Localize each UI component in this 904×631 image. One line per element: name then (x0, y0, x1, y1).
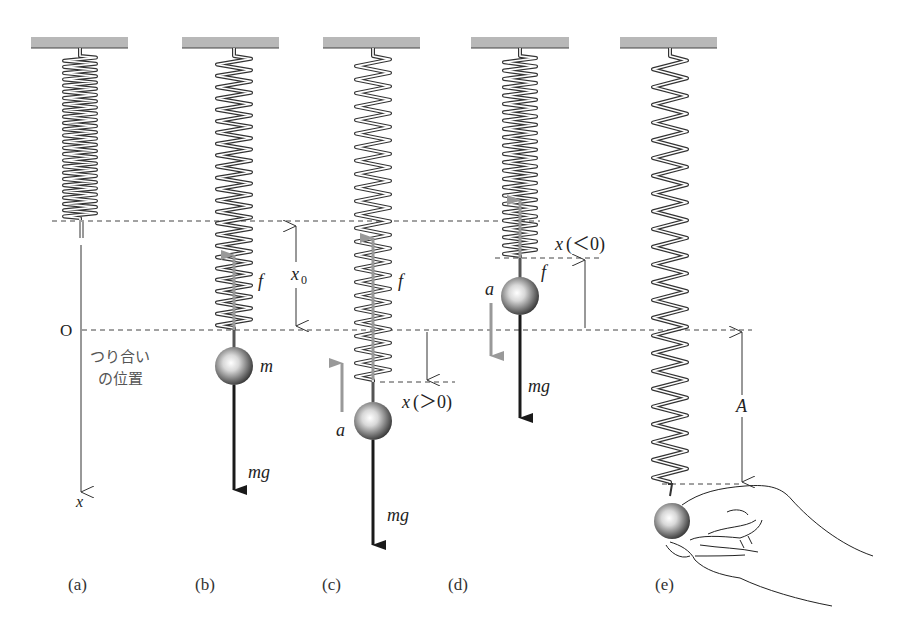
spring-oscillation-diagram: x O つり合い の位置 m f mg x 0 a f mg x (＞0) (0, 0, 904, 631)
panel-d: a f mg x (＜0) (485, 200, 605, 418)
mass-label-b: m (260, 356, 273, 376)
panel-label-e: (e) (655, 575, 674, 594)
ceiling-c (323, 37, 420, 48)
amplitude-label: A (735, 396, 748, 416)
panel-label-d: (d) (448, 575, 468, 594)
origin-label: O (60, 321, 72, 340)
panel-label-c: (c) (322, 575, 341, 594)
weight-label-d: mg (528, 376, 550, 396)
mass-ball-e (654, 503, 690, 539)
panel-label-a: (a) (68, 575, 87, 594)
force-label-d: f (541, 262, 549, 282)
ceiling-a (31, 37, 128, 48)
force-label-b: f (258, 271, 266, 291)
accel-label-d: a (485, 279, 494, 299)
hand-illustration (666, 486, 873, 606)
weight-label-c: mg (387, 505, 409, 525)
reference-lines (52, 221, 752, 484)
panel-label-b: (b) (195, 575, 215, 594)
weight-label-b: mg (248, 462, 270, 482)
mass-ball-b (215, 347, 253, 385)
d-disp-condition: (＜0) (566, 234, 605, 255)
ceilings (31, 37, 717, 48)
ceiling-e (620, 37, 717, 48)
mass-ball-d (501, 277, 539, 315)
mass-ball-c (354, 402, 392, 440)
ceiling-d (471, 37, 569, 48)
accel-label-c: a (336, 420, 345, 440)
panel-c: a f mg x (＞0) (336, 238, 452, 545)
d-disp-label: x (554, 234, 563, 254)
panel-labels: (a) (b) (c) (d) (e) (68, 575, 674, 594)
x0-subscript: 0 (301, 273, 307, 287)
x0-label: x (290, 264, 299, 284)
equilibrium-label-line1: つり合い (90, 348, 150, 366)
x-axis: x O つり合い の位置 (60, 222, 150, 510)
c-disp-label: x (401, 392, 410, 412)
axis-label-x: x (75, 493, 83, 510)
c-disp-condition: (＞0) (413, 392, 452, 413)
equilibrium-label-line2: の位置 (98, 370, 143, 388)
ceiling-b (182, 37, 279, 48)
force-label-c: f (398, 271, 406, 291)
